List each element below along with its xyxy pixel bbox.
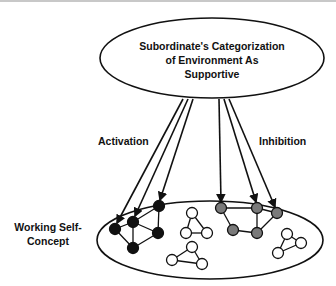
activated-node [128, 217, 139, 228]
inactive-node [202, 228, 213, 239]
inactive-node [181, 228, 192, 239]
activated-cluster [110, 201, 165, 254]
inhibited-node [216, 203, 227, 214]
inactive-cluster [167, 242, 208, 270]
working-self-concept-label-line1: Working Self- [14, 221, 82, 233]
inactive-cluster [181, 208, 213, 239]
inhibited-node [252, 228, 263, 239]
inhibited-node [272, 208, 283, 219]
inhibition-arrows [219, 99, 275, 207]
inhibited-node [228, 225, 239, 236]
inactive-cluster [273, 229, 307, 259]
inhibition-label: Inhibition [259, 135, 306, 147]
working-self-concept-ellipse [97, 201, 323, 279]
inactive-node [282, 229, 293, 240]
working-self-concept-label-line2: Concept [27, 235, 70, 247]
activation-label: Activation [98, 135, 149, 147]
inactive-node [187, 242, 198, 253]
inactive-node [296, 238, 307, 249]
inhibited-node [252, 203, 263, 214]
activated-node [153, 228, 164, 239]
activated-node [110, 224, 121, 235]
inactive-node [273, 248, 284, 259]
categorization-text-line1: Subordinate's Categorization [139, 40, 284, 52]
inactive-node [167, 255, 178, 266]
inactive-node [187, 208, 198, 219]
self-concept-diagram: Subordinate's Categorization of Environm… [0, 0, 336, 286]
categorization-text-line2: of Environment As [166, 54, 259, 66]
activated-node [154, 201, 165, 212]
categorization-text-line3: Supportive [185, 68, 240, 80]
categorization-node: Subordinate's Categorization of Environm… [100, 18, 324, 98]
activated-node [128, 243, 139, 254]
inactive-node [197, 259, 208, 270]
activation-arrow [135, 99, 188, 216]
inhibition-arrow [219, 99, 221, 202]
